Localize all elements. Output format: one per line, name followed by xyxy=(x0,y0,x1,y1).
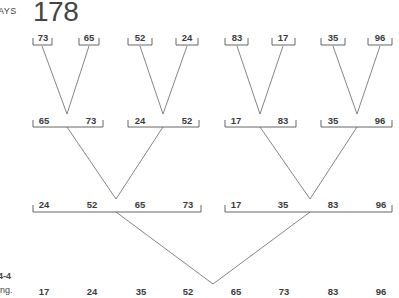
value: 96 xyxy=(375,32,386,43)
value: 83 xyxy=(328,199,339,210)
value: 24 xyxy=(87,286,98,297)
value: 35 xyxy=(278,199,289,210)
value: 65 xyxy=(135,199,146,210)
value: 96 xyxy=(375,115,386,126)
value: 73 xyxy=(86,115,97,126)
connectors-level0 xyxy=(42,46,380,114)
level0-values: 73 65 52 24 83 17 35 96 xyxy=(38,32,386,43)
value: 52 xyxy=(135,32,146,43)
value: 35 xyxy=(136,286,147,297)
value: 73 xyxy=(279,286,290,297)
value: 35 xyxy=(328,115,339,126)
value: 65 xyxy=(84,32,95,43)
value: 17 xyxy=(278,32,289,43)
value: 24 xyxy=(135,115,146,126)
value: 17 xyxy=(231,199,242,210)
merge-sort-diagram: 73 65 52 24 83 17 35 96 65 73 24 52 17 8… xyxy=(0,0,399,298)
level3-values: 17 24 35 52 65 73 83 96 xyxy=(39,286,387,297)
value: 83 xyxy=(232,32,243,43)
value: 65 xyxy=(39,115,50,126)
figure-number: 4-4 xyxy=(0,271,11,281)
level1-values: 65 73 24 52 17 83 35 96 xyxy=(39,115,386,126)
value: 52 xyxy=(87,199,98,210)
value: 17 xyxy=(231,115,242,126)
value: 52 xyxy=(182,115,193,126)
value: 73 xyxy=(38,32,49,43)
connectors-level2 xyxy=(116,212,310,284)
figure-caption: ing. xyxy=(0,285,13,295)
value: 35 xyxy=(328,32,339,43)
value: 17 xyxy=(39,286,50,297)
value: 83 xyxy=(328,286,339,297)
value: 73 xyxy=(183,199,194,210)
value: 24 xyxy=(39,199,50,210)
value: 52 xyxy=(183,286,194,297)
connectors-level1 xyxy=(67,127,357,199)
value: 24 xyxy=(182,32,193,43)
level2-values: 24 52 65 73 17 35 83 96 xyxy=(39,199,387,210)
value: 65 xyxy=(231,286,242,297)
value: 83 xyxy=(278,115,289,126)
value: 96 xyxy=(376,199,387,210)
value: 96 xyxy=(376,286,387,297)
